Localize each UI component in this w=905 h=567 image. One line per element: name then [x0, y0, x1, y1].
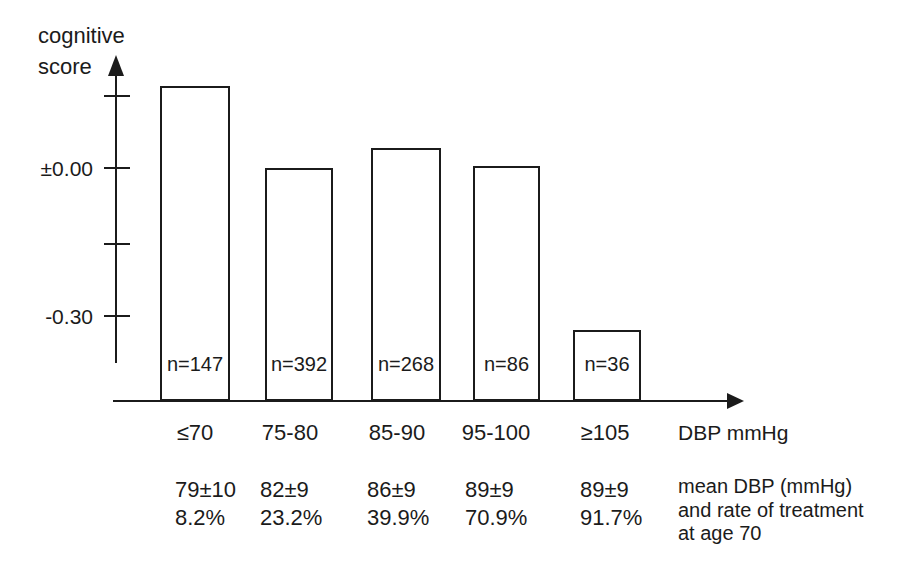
mean-dbp-value: 79±10: [175, 476, 236, 504]
x-axis-title: DBP mmHg: [678, 421, 788, 445]
bar-dbp-75-80: n=392: [265, 168, 333, 401]
y-tick: [104, 95, 130, 97]
bar-count-label: n=147: [162, 353, 228, 375]
treatment-rate-value: 8.2%: [175, 504, 236, 532]
stat-column: 86±9 39.9%: [367, 476, 429, 532]
bar-dbp-le70: n=147: [160, 86, 230, 401]
footnote: mean DBP (mmHg) and rate of treatment at…: [678, 475, 864, 546]
stat-column: 79±10 8.2%: [175, 476, 236, 532]
y-tick: [104, 167, 130, 169]
stat-column: 82±9 23.2%: [260, 476, 322, 532]
treatment-rate-value: 70.9%: [465, 504, 527, 532]
bar-count-label: n=392: [267, 353, 331, 375]
y-tick-label-zero: ±0.00: [33, 157, 93, 181]
mean-dbp-value: 82±9: [260, 476, 322, 504]
bar-dbp-85-90: n=268: [371, 148, 441, 401]
stat-column: 89±9 91.7%: [580, 476, 642, 532]
bar-count-label: n=268: [373, 353, 439, 375]
y-tick: [104, 315, 130, 317]
mean-dbp-value: 86±9: [367, 476, 429, 504]
x-tick-label: ≥105: [560, 421, 650, 445]
y-axis-arrow-up-icon: [108, 55, 124, 76]
x-tick-label: 95-100: [451, 421, 541, 445]
x-tick-label: 75-80: [245, 421, 335, 445]
treatment-rate-value: 23.2%: [260, 504, 322, 532]
y-tick-label-minus030: -0.30: [33, 305, 93, 329]
stat-column: 89±9 70.9%: [465, 476, 527, 532]
mean-dbp-value: 89±9: [580, 476, 642, 504]
x-tick-label: 85-90: [352, 421, 442, 445]
bar-count-label: n=86: [475, 353, 538, 375]
y-tick: [104, 243, 130, 245]
treatment-rate-value: 91.7%: [580, 504, 642, 532]
bar-count-label: n=36: [575, 353, 639, 375]
y-axis-line: [115, 74, 117, 363]
bar-dbp-ge105: n=36: [573, 330, 641, 401]
x-tick-label: ≤70: [150, 421, 240, 445]
treatment-rate-value: 39.9%: [367, 504, 429, 532]
bar-chart-figure: cognitive score ±0.00 -0.30 n=147 n=392 …: [0, 0, 905, 567]
x-axis-arrow-right-icon: [727, 393, 744, 409]
bar-dbp-95-100: n=86: [473, 166, 540, 401]
mean-dbp-value: 89±9: [465, 476, 527, 504]
